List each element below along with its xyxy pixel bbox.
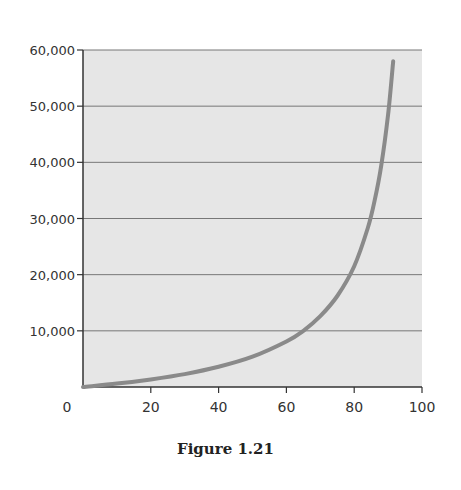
y-axis-ticks: 10,00020,00030,00040,00050,00060,000	[30, 43, 84, 339]
x-axis-ticks: 020406080100	[63, 387, 436, 415]
y-tick-label: 10,000	[30, 324, 76, 339]
x-tick-label: 100	[409, 399, 436, 415]
chart: 10,00020,00030,00040,00050,00060,000 020…	[0, 0, 461, 440]
y-tick-label: 30,000	[30, 212, 76, 227]
figure-caption: Figure 1.21	[0, 440, 461, 458]
y-tick-label: 40,000	[30, 155, 76, 170]
y-tick-label: 60,000	[30, 43, 76, 58]
x-tick-label: 0	[63, 399, 72, 415]
y-tick-label: 20,000	[30, 268, 76, 283]
x-tick-label: 80	[345, 399, 363, 415]
y-tick-label: 50,000	[30, 99, 76, 114]
x-tick-label: 40	[210, 399, 228, 415]
caption-text: Figure 1.21	[177, 440, 274, 458]
x-tick-label: 20	[142, 399, 160, 415]
x-tick-label: 60	[277, 399, 295, 415]
